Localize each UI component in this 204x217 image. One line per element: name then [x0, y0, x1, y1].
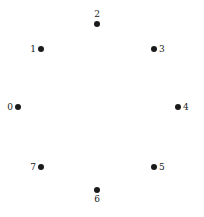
- node-label: 1: [30, 45, 36, 54]
- node-label: 7: [30, 163, 36, 172]
- node-label: 5: [159, 163, 165, 172]
- node-diagram-canvas: 01234567: [0, 0, 204, 217]
- node-label: 4: [183, 103, 189, 112]
- node-dot-icon[interactable]: [94, 21, 100, 27]
- node-dot-icon[interactable]: [175, 104, 181, 110]
- node-label: 6: [94, 195, 100, 204]
- node-dot-icon[interactable]: [38, 46, 44, 52]
- node-label: 3: [159, 45, 165, 54]
- node-label: 2: [94, 10, 100, 19]
- node-dot-icon[interactable]: [151, 46, 157, 52]
- node-dot-icon[interactable]: [151, 164, 157, 170]
- node-dot-icon[interactable]: [94, 187, 100, 193]
- node-label: 0: [7, 103, 13, 112]
- node-dot-icon[interactable]: [15, 104, 21, 110]
- node-dot-icon[interactable]: [38, 164, 44, 170]
